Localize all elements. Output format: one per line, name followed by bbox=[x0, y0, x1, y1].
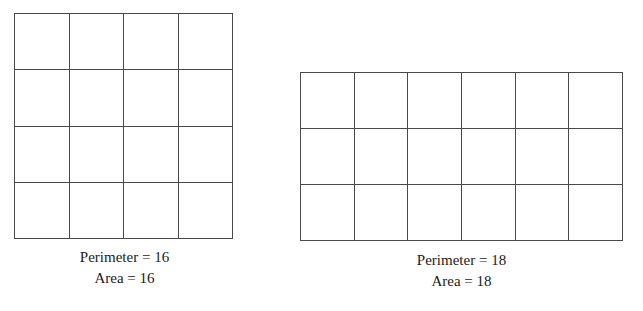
grid-cell bbox=[15, 127, 70, 183]
grid-cell bbox=[15, 183, 70, 239]
area-label-right: Area = 18 bbox=[300, 271, 623, 292]
grid-cell bbox=[301, 185, 355, 241]
grid-cell bbox=[124, 183, 179, 239]
grid-cell bbox=[462, 73, 516, 129]
grid-cell bbox=[301, 129, 355, 185]
grid-cell bbox=[179, 127, 234, 183]
grid-cell bbox=[124, 127, 179, 183]
grid-rectangle-6x3 bbox=[300, 72, 623, 241]
figure-right-caption: Perimeter = 18 Area = 18 bbox=[300, 250, 623, 292]
grid-cell bbox=[408, 73, 462, 129]
grid-cell bbox=[462, 185, 516, 241]
grid-cell bbox=[124, 14, 179, 70]
grid-cell bbox=[569, 185, 623, 241]
grid-cell bbox=[70, 14, 125, 70]
perimeter-label-left: Perimeter = 16 bbox=[15, 247, 234, 268]
grid-cell bbox=[179, 70, 234, 126]
grid-square-4x4 bbox=[14, 13, 233, 239]
grid-cell bbox=[569, 73, 623, 129]
grid-cell bbox=[355, 129, 409, 185]
grid-cell bbox=[15, 14, 70, 70]
figure-left-caption: Perimeter = 16 Area = 16 bbox=[15, 247, 234, 289]
grid-cell bbox=[301, 73, 355, 129]
grid-cell bbox=[516, 73, 570, 129]
grid-cell bbox=[516, 185, 570, 241]
grid-cell bbox=[70, 70, 125, 126]
grid-cell bbox=[355, 185, 409, 241]
grid-cell bbox=[179, 14, 234, 70]
figure-rectangle-18: Perimeter = 18 Area = 18 bbox=[300, 72, 623, 292]
grid-cell bbox=[124, 70, 179, 126]
grid-cell bbox=[70, 127, 125, 183]
grid-cell bbox=[15, 70, 70, 126]
area-label-left: Area = 16 bbox=[15, 268, 234, 289]
grid-cell bbox=[355, 73, 409, 129]
perimeter-label-right: Perimeter = 18 bbox=[300, 250, 623, 271]
grid-cell bbox=[70, 183, 125, 239]
grid-cell bbox=[516, 129, 570, 185]
grid-cell bbox=[179, 183, 234, 239]
grid-cell bbox=[408, 129, 462, 185]
grid-cell bbox=[462, 129, 516, 185]
grid-cell bbox=[569, 129, 623, 185]
grid-cell bbox=[408, 185, 462, 241]
figure-square-16: Perimeter = 16 Area = 16 bbox=[14, 13, 233, 289]
